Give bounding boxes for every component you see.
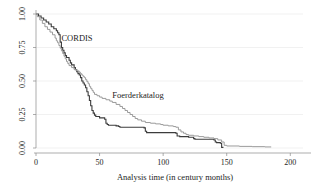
x-tick-label-1: 50 [96,158,104,167]
y-tick-label-0: 0.00 [18,141,27,155]
survival-chart: 0.000.250.500.751.00 050100150200 CORDIS… [0,0,315,189]
x-tick-label-4: 200 [284,158,296,167]
chart-canvas: 0.000.250.500.751.00 050100150200 CORDIS… [0,0,315,189]
y-tick-label-1: 0.25 [18,108,27,122]
axis-lines [34,10,311,153]
x-axis-title: Analysis time (in century months) [117,172,233,182]
y-tick-label-3: 0.75 [18,41,27,55]
x-tick-label-2: 100 [157,158,169,167]
series-annotations: CORDISFoerderkatalog [61,33,164,100]
series-annotation-cordis: CORDIS [61,33,92,43]
series-annotation-foerderkatalog: Foerderkatalog [112,90,164,100]
x-tick-label-0: 0 [34,158,38,167]
y-tick-label-2: 0.50 [18,74,27,88]
y-tick-label-4: 1.00 [18,7,27,21]
y-axis-ticks: 0.000.250.500.751.00 [18,7,37,155]
x-tick-label-3: 150 [221,158,233,167]
x-axis-ticks: 050100150200 [34,153,296,167]
